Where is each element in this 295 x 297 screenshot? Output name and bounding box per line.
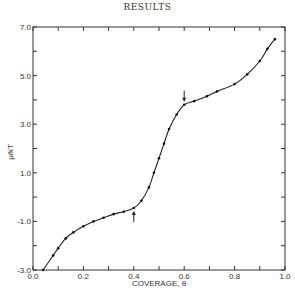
y-tick-label: 1.0 xyxy=(20,169,32,178)
data-point xyxy=(216,90,219,93)
data-point xyxy=(163,142,166,145)
data-point xyxy=(102,216,105,219)
data-point xyxy=(193,100,196,103)
y-axis-label: μ/kT xyxy=(6,144,15,160)
data-point xyxy=(133,207,136,210)
data-point xyxy=(82,225,85,228)
data-point xyxy=(64,237,67,240)
data-point xyxy=(153,172,156,175)
y-tick-label: 3.0 xyxy=(20,120,32,129)
data-point xyxy=(72,231,75,234)
data-point xyxy=(175,113,178,116)
x-axis-label: COVERAGE, θ xyxy=(132,279,187,288)
y-tick-label: -1.0 xyxy=(17,217,31,226)
data-point xyxy=(158,157,161,160)
data-point xyxy=(112,213,115,216)
data-point xyxy=(140,199,143,202)
data-point xyxy=(92,220,95,223)
data-point xyxy=(259,60,262,63)
y-tick-label: -3.0 xyxy=(17,266,31,275)
y-tick-label: 5.0 xyxy=(20,72,32,81)
arrow-down-head xyxy=(182,98,186,102)
data-point xyxy=(233,83,236,86)
y-tick-label: 7.0 xyxy=(20,23,32,32)
x-tick-label: 0.2 xyxy=(78,272,90,281)
data-point xyxy=(148,186,151,189)
data-point xyxy=(183,103,186,106)
y-axis-ticks: -3.0-1.01.03.05.07.0 xyxy=(17,23,285,275)
data-point xyxy=(266,48,269,51)
arrow-up-head xyxy=(132,211,136,215)
data-point xyxy=(57,247,60,250)
data-point xyxy=(42,269,45,272)
data-point xyxy=(246,73,249,76)
chart: 0.00.20.40.60.81.0 -3.0-1.01.03.05.07.0 … xyxy=(0,0,295,297)
data-point xyxy=(206,95,209,98)
series-line xyxy=(43,39,275,270)
data-point xyxy=(274,38,277,41)
data-point xyxy=(122,210,125,213)
x-tick-label: 0.8 xyxy=(229,272,241,281)
data-series xyxy=(42,38,276,271)
data-point xyxy=(52,254,55,257)
data-point xyxy=(168,128,171,131)
x-axis-ticks: 0.00.20.40.60.81.0 xyxy=(27,27,291,281)
x-tick-label: 1.0 xyxy=(279,272,291,281)
